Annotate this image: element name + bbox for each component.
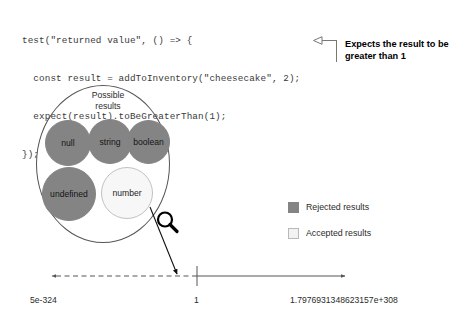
axis-label-min: 5e-324 (30, 295, 57, 305)
bubble-string: string (88, 119, 132, 164)
number-line: 5e-324 1 1.7976931348623157e+308 (0, 255, 460, 318)
legend-swatch-rejected-icon (288, 202, 299, 213)
axis-label-mid: 1 (194, 295, 199, 305)
legend-swatch-accepted-icon (288, 228, 299, 239)
legend-label: Accepted results (306, 228, 371, 238)
figure-root: test("returned value", () => { const res… (0, 0, 460, 318)
code-line-2: const result = addToInventory("cheesecak… (22, 73, 300, 86)
bubble-label: undefined (50, 189, 88, 199)
bubble-label: string (99, 137, 120, 147)
legend-label: Rejected results (306, 202, 369, 212)
legend: Rejected results Accepted results (288, 197, 371, 249)
bubble-label: null (61, 138, 74, 148)
bubble-null: null (45, 120, 91, 166)
bubble-label: boolean (133, 137, 164, 147)
legend-item-rejected: Rejected results (288, 197, 371, 217)
legend-item-accepted: Accepted results (288, 223, 371, 243)
callout-connector-vertical (336, 40, 337, 62)
bubble-label: number (112, 188, 141, 198)
bubble-undefined: undefined (42, 167, 96, 221)
number-line-graphic (0, 255, 460, 295)
code-line-1: test("returned value", () => { (22, 35, 300, 48)
callout-text: Expects the result to be greater than 1 (345, 39, 460, 62)
bubble-boolean: boolean (127, 120, 170, 164)
callout-connector-horizontal (322, 40, 337, 41)
axis-label-max: 1.7976931348623157e+308 (290, 295, 398, 305)
set-title: Possible results (78, 90, 138, 111)
